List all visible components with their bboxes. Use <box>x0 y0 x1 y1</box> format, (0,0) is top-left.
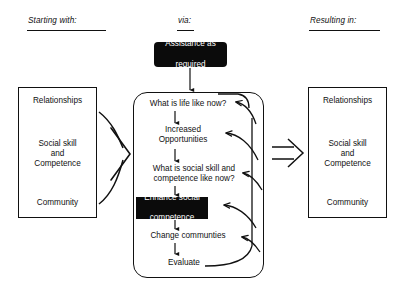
feedback-to-life-now <box>236 102 256 124</box>
output-outline-arrow <box>272 139 303 167</box>
connector-evaluate-to-return-spine <box>205 246 252 266</box>
feedback-to-opportunities <box>226 133 258 160</box>
input-curve-lower <box>99 160 123 204</box>
feedback-to-enhance-competence <box>224 205 256 228</box>
input-chevron-arrowhead <box>111 128 130 180</box>
diagram-canvas: Starting with: via: Resulting in: Relati… <box>0 0 405 286</box>
input-curve-upper <box>99 112 123 148</box>
connector-layer <box>0 0 405 286</box>
